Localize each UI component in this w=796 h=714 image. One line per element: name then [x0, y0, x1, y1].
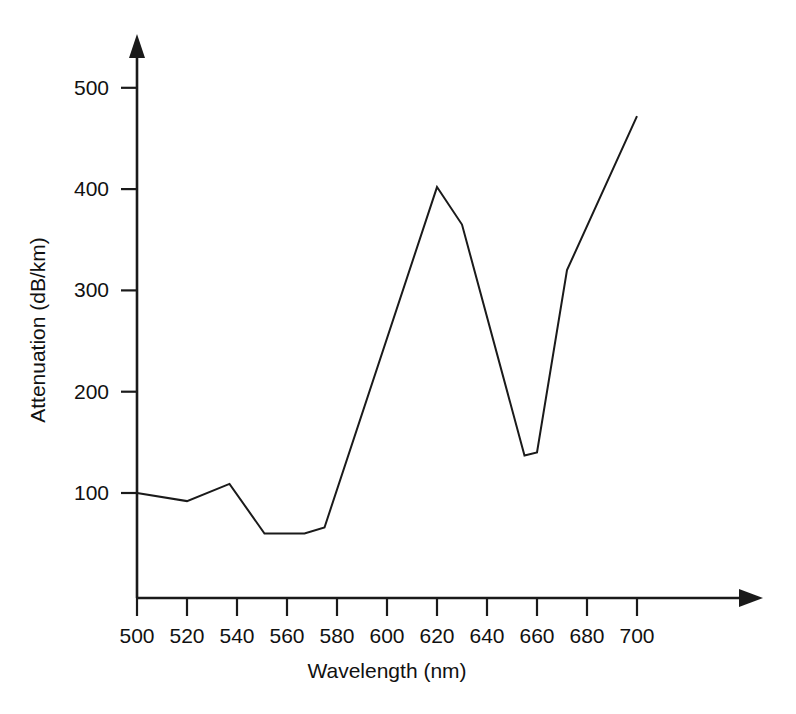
x-axis-tick-label: 580 — [319, 624, 354, 647]
y-axis-tick-label: 400 — [74, 177, 109, 200]
x-axis-ticks: 500520540560580600620640660680700 — [119, 598, 654, 647]
x-axis-tick-label: 700 — [619, 624, 654, 647]
y-axis-tick-label: 100 — [74, 481, 109, 504]
x-axis-tick-label: 620 — [419, 624, 454, 647]
x-axis-title: Wavelength (nm) — [307, 659, 466, 682]
x-axis-tick-label: 560 — [269, 624, 304, 647]
y-axis-title: Attenuation (dB/km) — [26, 237, 49, 423]
y-axis-ticks: 100200300400500 — [74, 76, 138, 504]
x-axis-tick-label: 500 — [119, 624, 154, 647]
y-axis-tick-label: 500 — [74, 76, 109, 99]
chart-figure: 100200300400500 500520540560580600620640… — [0, 0, 796, 714]
attenuation-line-chart: 100200300400500 500520540560580600620640… — [0, 0, 796, 714]
right-arrow-icon — [739, 589, 763, 607]
y-axis-tick-label: 200 — [74, 380, 109, 403]
up-arrow-icon — [129, 34, 145, 58]
x-axis-tick-label: 520 — [169, 624, 204, 647]
x-axis-tick-label: 680 — [569, 624, 604, 647]
y-axis — [129, 34, 145, 598]
x-axis-tick-label: 660 — [519, 624, 554, 647]
x-axis-tick-label: 540 — [219, 624, 254, 647]
attenuation-curve — [137, 116, 637, 533]
x-axis — [137, 589, 763, 607]
y-axis-tick-label: 300 — [74, 278, 109, 301]
x-axis-tick-label: 640 — [469, 624, 504, 647]
x-axis-tick-label: 600 — [369, 624, 404, 647]
